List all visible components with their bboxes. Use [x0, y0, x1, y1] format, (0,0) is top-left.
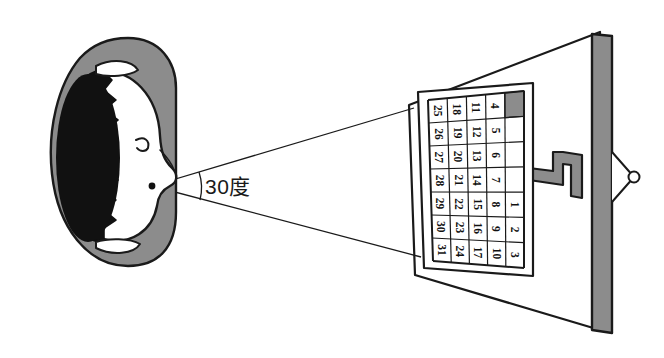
calendar-day-number: 25 — [432, 105, 444, 117]
calendar-day-number: 13 — [471, 150, 483, 162]
calendar-day-number: 30 — [435, 221, 447, 233]
calendar-day-number: 8 — [490, 202, 502, 208]
calendar-day-number: 31 — [436, 244, 448, 256]
calendar-highlight-cell — [505, 91, 524, 118]
calendar-day-number: 12 — [471, 126, 483, 138]
sight-line-upper — [152, 108, 414, 186]
calendar-day-number: 16 — [472, 223, 484, 235]
calendar-day-number: 21 — [453, 174, 465, 186]
sight-lines-group — [152, 108, 421, 257]
calendar-day-number: 10 — [491, 248, 503, 260]
door-knob-icon — [629, 172, 640, 183]
calendar-day-number: 27 — [433, 151, 445, 163]
calendar-day-number: 9 — [490, 226, 502, 232]
calendar-day-number: 14 — [471, 174, 483, 186]
calendar-day-number: 15 — [472, 198, 484, 210]
calendar-day-number: 2 — [509, 227, 521, 233]
calendar-day-number: 11 — [470, 102, 482, 113]
angle-label: 30度 — [205, 170, 251, 200]
door-post-group — [592, 34, 640, 333]
calendar-day-number: 3 — [509, 252, 521, 258]
scene-illustration: 2526272829303118192021222324111213141516… — [0, 0, 664, 358]
calendar-day-number: 1 — [509, 202, 521, 208]
person-group — [51, 38, 176, 266]
calendar-group: 2526272829303118192021222324111213141516… — [418, 83, 533, 276]
calendar-day-number: 20 — [452, 151, 464, 163]
calendar-day-number: 23 — [454, 222, 466, 234]
calendar-day-number: 5 — [490, 128, 502, 134]
calendar-day-number: 18 — [451, 103, 463, 115]
person-hair-core — [56, 74, 120, 242]
calendar-day-number: 26 — [433, 128, 445, 140]
calendar-day-number: 7 — [490, 177, 502, 183]
calendar-day-number: 19 — [452, 127, 464, 139]
calendar-day-number: 22 — [453, 198, 465, 210]
calendar-day-number: 28 — [434, 175, 446, 187]
calendar-day-number: 29 — [434, 198, 446, 210]
viewpoint-dot — [149, 183, 156, 190]
door-post — [592, 34, 612, 333]
illustration-canvas: 2526272829303118192021222324111213141516… — [0, 0, 664, 358]
calendar-day-number: 6 — [490, 152, 502, 158]
calendar-day-number: 17 — [472, 247, 484, 259]
calendar-day-number: 4 — [489, 103, 501, 109]
calendar-day-number: 24 — [454, 246, 466, 258]
person-ear-bottom — [96, 239, 140, 253]
angle-arc — [199, 172, 202, 200]
person-ear-top — [96, 61, 138, 76]
sight-line-lower — [152, 186, 421, 257]
